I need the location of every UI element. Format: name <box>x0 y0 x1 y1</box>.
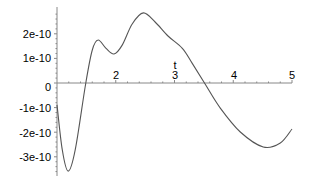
x-axis-title: t <box>173 59 176 71</box>
y-tick-label: -3e-10 <box>19 151 51 163</box>
y-tick-label: 0 <box>45 81 51 93</box>
data-series-line <box>57 13 292 171</box>
y-tick-label: 1e-10 <box>23 52 51 64</box>
line-chart: 2e-10 1e-10 0 -1e-10 -2e-10 -3e-10 2 3 4… <box>0 0 312 183</box>
y-tick-label: -1e-10 <box>19 102 51 114</box>
axes <box>54 7 292 176</box>
y-tick-label: 2e-10 <box>23 28 51 40</box>
x-tick-label: 4 <box>231 69 237 81</box>
x-tick-label: 2 <box>113 69 119 81</box>
y-tick-label: -2e-10 <box>19 127 51 139</box>
x-tick-label: 5 <box>289 69 295 81</box>
